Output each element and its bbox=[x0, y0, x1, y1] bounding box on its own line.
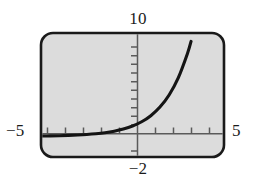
calculator-screen-frame-icon bbox=[41, 33, 224, 157]
y-min-label: −2 bbox=[0, 160, 258, 177]
y-max-label: 10 bbox=[0, 10, 258, 27]
x-max-label: 5 bbox=[232, 122, 241, 139]
graph-figure: 10 −5 5 −2 bbox=[0, 0, 258, 183]
x-min-label: −5 bbox=[6, 122, 25, 139]
